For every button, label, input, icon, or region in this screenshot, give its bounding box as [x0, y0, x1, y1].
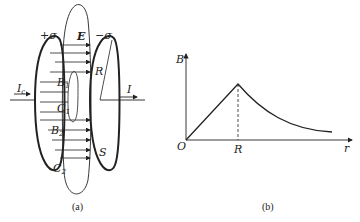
figure-a: +σ E −σ R Ic I B1 C1 B2 S C2 (a) [10, 5, 145, 213]
plus-sigma-label: +σ [40, 29, 57, 42]
b1-label: B1 [56, 76, 70, 90]
radius-label: R [94, 65, 103, 78]
caption-b: (b) [262, 201, 274, 213]
surface-label: S [99, 146, 107, 159]
minus-sigma-label: −σ [95, 29, 112, 42]
current-out-label: I [126, 83, 132, 96]
figure-b: B O R r (b) [175, 53, 352, 213]
b-field-curve [186, 84, 332, 140]
caption-a: (a) [72, 201, 83, 213]
origin-label: O [177, 140, 186, 153]
peak-r-label: R [233, 143, 242, 156]
capacitor-diagram: +σ E −σ R Ic I B1 C1 B2 S C2 (a) B O R r… [0, 0, 360, 222]
current-in-label: Ic [16, 82, 25, 96]
c2-label: C2 [53, 162, 66, 176]
y-axis-label: B [175, 53, 184, 66]
e-field-label: E [76, 30, 86, 43]
x-axis-label: r [344, 142, 350, 155]
